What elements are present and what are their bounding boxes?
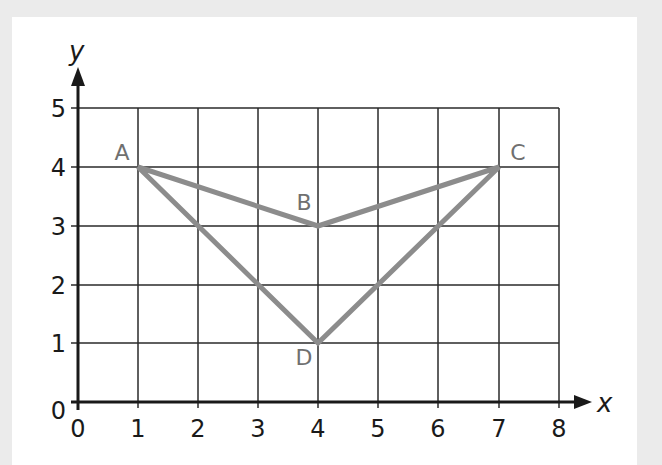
svg-text:0: 0	[51, 397, 66, 425]
svg-text:4: 4	[51, 154, 66, 182]
point-labels: A B C D	[114, 140, 525, 370]
svg-text:5: 5	[370, 415, 385, 443]
x-axis-arrow-icon	[574, 395, 592, 409]
svg-text:0: 0	[70, 415, 85, 443]
y-tick-labels: 0 1 2 3 4 5	[51, 95, 66, 425]
svg-text:3: 3	[250, 415, 265, 443]
svg-text:4: 4	[310, 415, 325, 443]
svg-text:6: 6	[430, 415, 445, 443]
svg-text:1: 1	[130, 415, 145, 443]
grid-lines	[71, 108, 559, 408]
point-a-label: A	[114, 140, 129, 165]
point-b-label: B	[296, 190, 311, 215]
x-axis-label: x	[596, 388, 613, 418]
coordinate-grid-figure: y x 0 1 2 3 4 5 0 1 2 3 4 5 6 7 8 A B C …	[0, 0, 662, 465]
svg-text:7: 7	[491, 415, 506, 443]
point-c-label: C	[510, 140, 525, 165]
axes	[71, 67, 592, 410]
svg-text:2: 2	[190, 415, 205, 443]
y-axis-arrow-icon	[71, 67, 85, 86]
svg-text:2: 2	[51, 272, 66, 300]
svg-text:5: 5	[51, 95, 66, 123]
svg-text:8: 8	[551, 415, 566, 443]
y-axis-label: y	[68, 36, 85, 66]
point-d-label: D	[296, 345, 313, 370]
x-tick-labels: 0 1 2 3 4 5 6 7 8	[70, 415, 566, 443]
svg-text:3: 3	[51, 213, 66, 241]
svg-text:1: 1	[51, 330, 66, 358]
